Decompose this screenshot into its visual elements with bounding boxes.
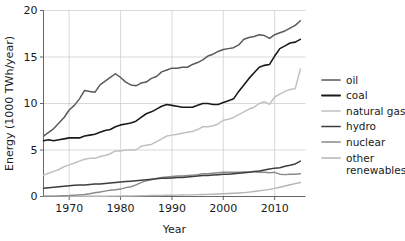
gridlines (44, 11, 306, 197)
x-tick-label-2000: 2000 (209, 202, 237, 215)
x-tick-label-1970: 1970 (55, 202, 83, 215)
legend-label-other-renewables-line2: renewables (346, 164, 405, 176)
y-tick-label-0: 0 (31, 190, 38, 203)
chart-canvas: 0510152019701980199020002010 YearEnergy … (0, 0, 405, 241)
legend-label-hydro: hydro (346, 120, 376, 132)
y-tick-label-20: 20 (24, 4, 38, 17)
x-tick-label-1990: 1990 (158, 202, 186, 215)
legend[interactable]: oilcoalnatural gashydronuclearotherrenew… (322, 74, 405, 176)
energy-sources-line-chart: 0510152019701980199020002010 YearEnergy … (0, 0, 405, 241)
legend-label-natural-gas: natural gas (346, 105, 405, 117)
legend-label-other: other (346, 152, 375, 164)
legend-label-nuclear: nuclear (346, 136, 386, 148)
legend-item-coal[interactable]: coal (322, 89, 368, 101)
x-axis-title: Year (162, 223, 187, 236)
y-tick-label-10: 10 (24, 97, 38, 110)
legend-label-coal: coal (346, 89, 368, 101)
legend-label-oil: oil (346, 74, 358, 86)
legend-item-other[interactable]: other (322, 152, 375, 164)
y-axis-title: Energy (1000 TWh/year) (3, 36, 16, 171)
legend-item-natural-gas[interactable]: natural gas (322, 105, 405, 117)
x-tick-label-1980: 1980 (107, 202, 135, 215)
legend-item-hydro[interactable]: hydro (322, 120, 376, 132)
legend-item-oil[interactable]: oil (322, 74, 358, 86)
y-tick-label-5: 5 (31, 144, 38, 157)
y-tick-label-15: 15 (24, 51, 38, 64)
x-tick-label-2010: 2010 (261, 202, 289, 215)
legend-item-nuclear[interactable]: nuclear (322, 136, 386, 148)
